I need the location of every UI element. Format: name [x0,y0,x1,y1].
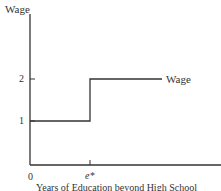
wage-step-line [30,79,162,121]
y-tick-label-1: 1 [19,115,24,126]
series-label-wage: Wage [166,73,191,85]
x-tick-label-0: 0 [28,171,33,182]
y-tick-label-2: 2 [19,73,24,84]
x-tick-label-estar: e* [85,170,94,181]
x-axis-label: Years of Education beyond High School [36,182,197,191]
chart-canvas [0,0,221,191]
y-axis-label: Wage [5,3,30,15]
